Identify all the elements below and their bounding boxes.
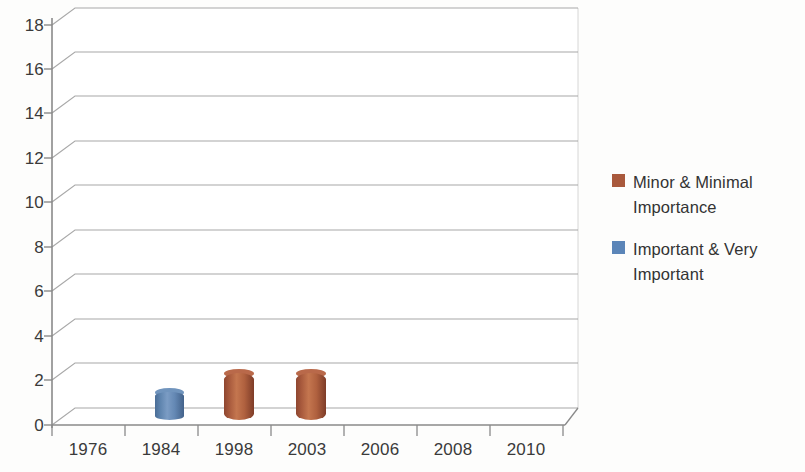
y-tick-8: 8 <box>4 238 44 258</box>
bar-body <box>224 373 254 420</box>
y-tick-6: 6 <box>4 282 44 302</box>
y-axis-ticks <box>44 25 52 425</box>
y-axis-labels: 18 16 14 12 10 8 6 4 2 0 <box>0 0 44 472</box>
x-tick-1976: 1976 <box>52 440 124 460</box>
x-tick-2010: 2010 <box>490 440 562 460</box>
chart-legend: Minor & Minimal Importance Important & V… <box>612 170 805 304</box>
y-tick-14: 14 <box>4 104 44 124</box>
legend-label-line2: Important <box>633 265 704 283</box>
legend-label-line2: Importance <box>633 198 717 216</box>
chart-page: 18 16 14 12 10 8 6 4 2 0 1976 1984 1998 … <box>0 0 805 472</box>
y-tick-16: 16 <box>4 60 44 80</box>
legend-swatch-important-very-icon <box>612 241 625 254</box>
y-tick-0: 0 <box>4 416 44 436</box>
x-axis-labels: 1976 1984 1998 2003 2006 2008 2010 <box>0 440 600 470</box>
x-tick-2006: 2006 <box>344 440 416 460</box>
y-tick-18: 18 <box>4 16 44 36</box>
legend-label-important-very: Important & Very Important <box>633 237 758 287</box>
legend-label-minor-minimal: Minor & Minimal Importance <box>633 170 753 220</box>
legend-entry-minor-minimal[interactable]: Minor & Minimal Importance <box>612 170 805 220</box>
x-tick-1984: 1984 <box>125 440 197 460</box>
bar-1984-important-very-important[interactable] <box>155 392 184 420</box>
y-tick-12: 12 <box>4 149 44 169</box>
bar-body <box>296 373 326 420</box>
bar-body <box>155 392 184 420</box>
bar-1998-minor-minimal-importance[interactable] <box>224 373 254 420</box>
legend-entry-important-very[interactable]: Important & Very Important <box>612 237 805 287</box>
legend-label-line1: Important & Very <box>633 240 758 258</box>
bar-2003-minor-minimal-importance[interactable] <box>296 373 326 420</box>
x-tick-2008: 2008 <box>417 440 489 460</box>
y-tick-10: 10 <box>4 193 44 213</box>
legend-label-line1: Minor & Minimal <box>633 173 753 191</box>
legend-swatch-minor-minimal-icon <box>612 174 625 187</box>
x-axis-ticks <box>52 425 563 436</box>
y-tick-4: 4 <box>4 327 44 347</box>
x-tick-1998: 1998 <box>198 440 270 460</box>
x-tick-2003: 2003 <box>271 440 343 460</box>
y-tick-2: 2 <box>4 371 44 391</box>
